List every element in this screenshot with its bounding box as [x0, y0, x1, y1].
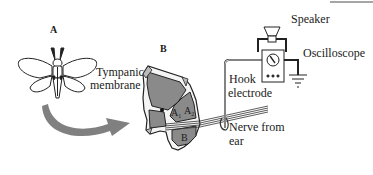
oscilloscope-icon: [262, 50, 284, 82]
hook-electrode-label: Hook: [229, 72, 256, 86]
ground-icon: [284, 60, 307, 87]
panel-a-label: A: [50, 24, 58, 35]
nerve-from-ear-label: Nerve from: [229, 120, 285, 134]
speaker-icon: [258, 27, 286, 52]
panel-b-label: B: [160, 43, 167, 54]
b-region-label: B: [181, 132, 188, 143]
hook-electrode-label-line2: electrode: [228, 86, 272, 100]
speaker-label: Speaker: [291, 12, 330, 26]
nerve-from-ear-label-line2: ear: [229, 134, 244, 148]
tympanic-membrane-label-line2: membrane: [90, 78, 141, 92]
curved-arrow: [42, 104, 130, 136]
oscilloscope-label: Oscilloscope: [303, 46, 365, 60]
moth-icon: [18, 48, 96, 98]
tympanic-membrane-label: Tympanic: [96, 65, 144, 79]
moth-ear-diagram: A Tympanic membrane B: [0, 0, 373, 175]
